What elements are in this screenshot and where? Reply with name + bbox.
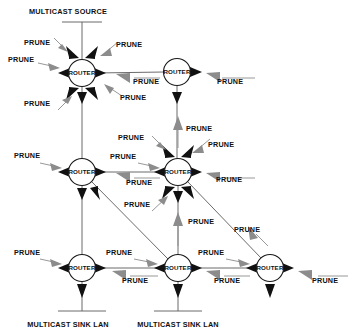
r7-arrow-s-out: [265, 284, 275, 298]
r1-prune-e-head: [116, 73, 130, 83]
router-label-r5: ROUTER: [68, 264, 95, 271]
prune-label: PRUNE: [110, 152, 136, 161]
prune-label: PRUNE: [217, 77, 243, 86]
source-lan-group: [62, 22, 102, 59]
diagram-canvas: ROUTER ROUTER ROUTER ROUTER ROUTER ROUTE…: [0, 0, 355, 335]
prune-label: PRUNE: [24, 99, 50, 108]
prune-label: PRUNE: [120, 93, 146, 102]
r1-prune-se-head: [104, 84, 114, 94]
router-node-r3[interactable]: ROUTER: [68, 159, 95, 186]
r3-arrow-s-out: [77, 188, 87, 200]
r7-prune-e-head: [298, 270, 312, 280]
r1-prune-w-head: [48, 63, 60, 71]
prune-label: PRUNE: [124, 200, 150, 209]
router-label-r1: ROUTER: [68, 69, 95, 76]
r4-prune-w-head: [148, 163, 160, 171]
r2-arrow-e-out: [190, 67, 202, 77]
prune-label: PRUNE: [234, 225, 260, 234]
r1-prune-ne-head: [100, 48, 112, 56]
prune-label: PRUNE: [186, 124, 212, 133]
r5-arrow-s-out: [77, 284, 87, 298]
router-label-r4: ROUTER: [164, 168, 191, 175]
r1-arrow-se-out: [85, 87, 98, 100]
r4-arrow-nw-out: [162, 145, 175, 158]
r1-arrow-nw-out: [66, 46, 79, 59]
prune-label: PRUNE: [118, 133, 144, 142]
r1-arrow-ne-out: [85, 46, 98, 59]
prune-label: PRUNE: [116, 40, 142, 49]
r4-arrow-sw-out: [162, 186, 175, 199]
prune-label: PRUNE: [8, 55, 34, 64]
r5-prune-w-head: [50, 259, 62, 267]
r6-prune-n-head: [173, 212, 183, 226]
r6-arrow-s-out: [173, 284, 183, 298]
router-node-r1[interactable]: ROUTER: [68, 60, 95, 87]
router-node-r7[interactable]: ROUTER: [256, 255, 283, 282]
prune-label: PRUNE: [106, 248, 132, 257]
router-node-r6[interactable]: ROUTER: [164, 255, 191, 282]
multicast-sink-lan-center-label: MULTICAST SINK LAN: [137, 320, 219, 329]
prune-label: PRUNE: [133, 77, 159, 86]
multicast-prune-diagram: ROUTER ROUTER ROUTER ROUTER ROUTER ROUTE…: [0, 0, 355, 335]
router-node-r4[interactable]: ROUTER: [164, 159, 191, 186]
router-label-r3: ROUTER: [68, 168, 95, 175]
router-label-r7: ROUTER: [256, 264, 283, 271]
router-label-r2: ROUTER: [163, 68, 190, 75]
prune-label: PRUNE: [126, 178, 152, 187]
link-r1-r2: [96, 72, 164, 73]
prune-label: PRUNE: [188, 217, 214, 226]
r4-prune-ne-head: [192, 145, 204, 153]
prune-label: PRUNE: [216, 175, 242, 184]
router-node-r5[interactable]: ROUTER: [68, 255, 95, 282]
prune-label: PRUNE: [198, 248, 224, 257]
prune-label: PRUNE: [208, 140, 234, 149]
r4-prune-nw-head: [156, 142, 166, 150]
r6-prune-w-head: [146, 259, 158, 267]
r2-arrow-s-out: [172, 92, 182, 104]
multicast-source-label: MULTICAST SOURCE: [29, 7, 107, 16]
r7-prune-w-head: [238, 259, 250, 267]
prune-label: PRUNE: [312, 276, 338, 285]
r4-arrow-se-out: [181, 186, 194, 199]
multicast-sink-lan-left-label: MULTICAST SINK LAN: [27, 320, 109, 329]
prune-label: PRUNE: [14, 151, 40, 160]
prune-label: PRUNE: [14, 248, 40, 257]
prune-label: PRUNE: [214, 276, 240, 285]
router-label-r6: ROUTER: [164, 264, 191, 271]
r7-arrows: [226, 226, 348, 298]
prune-label: PRUNE: [24, 38, 50, 47]
r4-prune-n-head: [173, 116, 183, 130]
r4-arrow-ne-out: [181, 145, 194, 158]
r1-arrow-s-out: [77, 92, 87, 104]
r3-prune-w-head: [50, 163, 62, 171]
router-node-r2[interactable]: ROUTER: [163, 59, 190, 86]
prune-label: PRUNE: [122, 276, 148, 285]
r1-prune-nw-head: [58, 44, 68, 52]
r4-arrow-s-out: [173, 191, 183, 203]
r7-prune-nw-stem: [256, 234, 268, 246]
